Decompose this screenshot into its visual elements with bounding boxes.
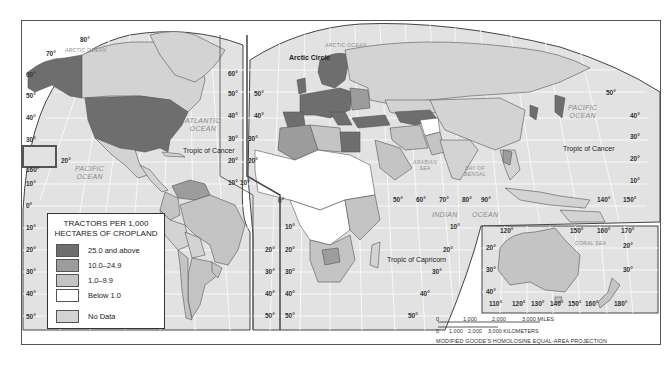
legend-item: 10.0–24.9	[56, 258, 121, 272]
deg-label: 160°	[26, 167, 39, 174]
legend-item: 25.0 and above	[56, 243, 140, 257]
legend-label: 25.0 and above	[88, 246, 140, 255]
legend-label: 10.0–24.9	[88, 261, 121, 270]
label-tropic-cancer-west: Tropic of Cancer	[183, 147, 234, 154]
ocean-label-atlantic: ATLANTICOCEAN	[185, 117, 221, 133]
deg-label: 20°	[486, 245, 496, 252]
deg-label: 40°	[26, 291, 36, 298]
deg-label: 30°	[248, 136, 258, 143]
ocean-label-line: SEA	[420, 165, 431, 171]
legend-title-line: HECTARES OF CROPLAND	[55, 229, 158, 238]
ocean-label-line: PACIFIC	[568, 104, 597, 111]
scale-km-tick: 1,000	[449, 328, 463, 334]
ocean-label-arabian-sea: ARABIANSEA	[413, 160, 437, 172]
deg-label: 30°	[623, 267, 633, 274]
deg-label: 20°	[265, 247, 275, 254]
deg-label: 40°	[285, 291, 295, 298]
scale-mile-tick: 3,000 MILES	[522, 316, 554, 322]
deg-label: 10°	[26, 225, 36, 232]
deg-label: 20°	[61, 158, 71, 165]
ocean-label-line: INDIAN	[432, 211, 458, 218]
deg-label: 50°	[393, 197, 403, 204]
ocean-label-coral-sea: CORAL SEA	[575, 241, 606, 247]
botswana	[322, 248, 340, 265]
ocean-label-bay-of-bengal: BAY OFBENGAL	[464, 166, 486, 178]
deg-label: 10°	[240, 180, 250, 187]
ocean-label-pacific-east: PACIFICOCEAN	[568, 104, 597, 120]
deg-label: 50°	[26, 314, 36, 321]
deg-label: 20°	[248, 158, 258, 165]
projection-note: MODIFIED GOODE'S HOMOLOSINE EQUAL-AREA P…	[436, 338, 607, 344]
deg-label: 50°	[254, 91, 264, 98]
deg-label: 30°	[26, 137, 36, 144]
deg-label: 30°	[228, 136, 238, 143]
scale-km-tick: 3,000 KILOMETERS	[488, 328, 539, 334]
deg-label: 20°	[228, 158, 238, 165]
deg-label: 30°	[26, 269, 36, 276]
legend-label: Below 1.0	[88, 291, 121, 300]
deg-label: 60°	[228, 71, 238, 78]
deg-label: 0°	[278, 198, 284, 205]
deg-label: 120°	[512, 301, 525, 308]
deg-label: 10°	[450, 224, 460, 231]
deg-label: 70°	[46, 51, 56, 58]
deg-label: 60°	[416, 197, 426, 204]
deg-label: 150°	[570, 228, 583, 235]
deg-label: 20°	[26, 247, 36, 254]
scale-km-tick: 2,000	[468, 328, 482, 334]
label-tropic-capricorn: Tropic of Capricorn	[387, 256, 446, 263]
deg-label: 130°	[531, 301, 544, 308]
deg-label: 30°	[432, 269, 442, 276]
deg-label: 40°	[265, 291, 275, 298]
deg-label: 0°	[26, 203, 32, 210]
scale-mile-tick: 2,000	[492, 316, 506, 322]
deg-label: 120°	[500, 228, 513, 235]
deg-label: 50°	[285, 313, 295, 320]
ocean-label-arctic-west: ARCTIC OCEAN	[65, 48, 106, 54]
egypt	[340, 132, 360, 152]
legend-swatch	[56, 259, 79, 272]
deg-label: 20°	[443, 247, 453, 254]
hawaii-inset	[23, 146, 56, 167]
legend-item: Below 1.0	[56, 288, 121, 302]
scale-mile-tick: 0	[436, 316, 439, 322]
ocean-label-line: BENGAL	[464, 171, 486, 177]
ocean-label-line: ATLANTIC	[185, 117, 221, 124]
ocean-label-line: OCEAN	[569, 112, 595, 119]
legend: TRACTORS PER 1,000 HECTARES OF CROPLAND …	[47, 213, 165, 329]
ocean-label-indian-2: OCEAN	[472, 211, 498, 219]
deg-label: 180°	[614, 301, 627, 308]
legend-item: 1.0–9.9	[56, 273, 113, 287]
deg-label: 30°	[285, 269, 295, 276]
deg-label: 30°	[486, 267, 496, 274]
ocean-label-arctic-east: ARCTIC OCEAN	[325, 43, 366, 49]
deg-label: 40°	[420, 291, 430, 298]
label-tropic-cancer-east: Tropic of Cancer	[563, 145, 614, 152]
legend-item: No Data	[56, 309, 116, 323]
deg-label: 40°	[630, 113, 640, 120]
deg-label: 50°	[228, 91, 238, 98]
deg-label: 40°	[254, 113, 264, 120]
scale-km-tick: 0	[436, 328, 439, 334]
deg-label: 80°	[462, 197, 472, 204]
deg-label: 10°	[285, 224, 295, 231]
deg-label: 50°	[26, 93, 36, 100]
deg-label: 170°	[621, 228, 634, 235]
ocean-label-pacific-west: PACIFICOCEAN	[75, 165, 104, 181]
legend-swatch	[56, 244, 79, 257]
legend-title: TRACTORS PER 1,000 HECTARES OF CROPLAND	[48, 219, 164, 238]
deg-label: 140°	[550, 301, 563, 308]
deg-label: 10°	[228, 180, 238, 187]
deg-label: 20°	[630, 156, 640, 163]
deg-label: 50°	[408, 313, 418, 320]
deg-label: 110°	[489, 301, 502, 308]
legend-label: 1.0–9.9	[88, 276, 113, 285]
eastern-europe	[350, 88, 370, 110]
ocean-label-line: OCEAN	[190, 125, 216, 132]
legend-swatch	[56, 274, 79, 287]
label-arctic-circle: Arctic Circle	[289, 54, 330, 61]
deg-label: 70°	[439, 197, 449, 204]
deg-label: 140°	[597, 197, 610, 204]
deg-label: 30°	[630, 134, 640, 141]
ocean-label-indian: INDIAN	[432, 211, 458, 219]
